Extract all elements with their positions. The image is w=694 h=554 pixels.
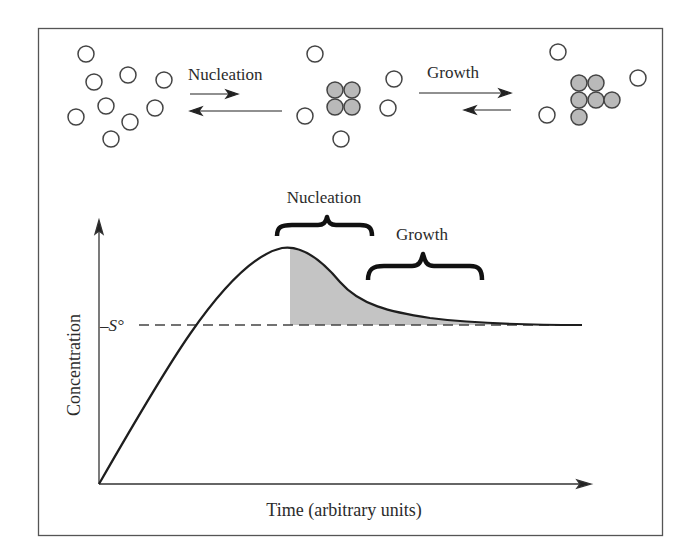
threshold-label: –S° [99, 316, 124, 335]
cluster-particle [571, 75, 587, 91]
stage-nucleus [297, 46, 402, 147]
monomer-circle [386, 71, 402, 87]
growth-bracket-label: Growth [396, 225, 448, 244]
monomer-circle [297, 108, 313, 124]
monomer-circle [333, 131, 349, 147]
stage-monomers [68, 46, 172, 147]
cluster-particle [571, 92, 587, 108]
monomer-circle [78, 46, 94, 62]
monomer-circle [380, 100, 396, 116]
nucleation-transition-label: Nucleation [188, 65, 263, 84]
stage-grown-crystal [539, 44, 646, 125]
monomer-circle [98, 98, 114, 114]
nucleation-bracket-label: Nucleation [287, 188, 362, 207]
equilibrium-arrows-nucleation [190, 90, 282, 115]
monomer-circle [122, 114, 138, 130]
monomer-circle [68, 109, 84, 125]
monomer-circle [539, 107, 555, 123]
monomer-circle [550, 44, 566, 60]
equilibrium-arrows-growth [419, 89, 511, 114]
y-axis-label: Concentration [64, 314, 84, 416]
nucleation-brace-icon [277, 217, 372, 236]
cluster-particle [588, 75, 604, 91]
nucleus-cluster [327, 82, 360, 115]
monomer-circle [86, 74, 102, 90]
cluster-particle [571, 109, 587, 125]
axes [95, 220, 591, 488]
monomer-circle [120, 67, 136, 83]
concentration-curve [99, 248, 582, 484]
crystal-cluster [571, 75, 620, 125]
cluster-particle [327, 82, 343, 98]
figure-canvas: Nucleation Growth [0, 0, 694, 554]
cluster-particle [604, 92, 620, 108]
cluster-particle [588, 92, 604, 108]
monomer-circle [156, 72, 172, 88]
monomer-circle [630, 70, 646, 86]
growth-transition-label: Growth [427, 63, 479, 82]
x-axis-label: Time (arbitrary units) [266, 500, 421, 521]
cluster-particle [344, 99, 360, 115]
cluster-particle [344, 82, 360, 98]
cluster-particle [327, 99, 343, 115]
monomer-circle [103, 131, 119, 147]
growth-brace-icon [368, 254, 482, 280]
monomer-circle [147, 100, 163, 116]
monomer-circle [307, 46, 323, 62]
